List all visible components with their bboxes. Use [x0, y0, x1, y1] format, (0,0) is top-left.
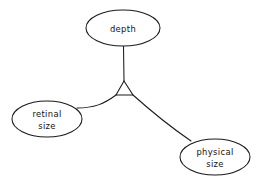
- link-junction-to-physical-size: [133, 95, 191, 141]
- node-depth-label: depth: [110, 24, 136, 34]
- node-retinal-size-label-line1: retinal: [32, 109, 61, 119]
- node-depth[interactable]: depth: [86, 10, 160, 46]
- node-retinal-size-shape: [12, 101, 82, 137]
- node-retinal-size-label-line2: size: [38, 121, 56, 131]
- concept-diagram: depth retinal size physical size: [0, 0, 261, 183]
- junction-triangle-icon: [116, 81, 133, 95]
- link-junction-to-retinal-size: [77, 95, 116, 108]
- node-physical-size-shape: [180, 139, 250, 175]
- node-physical-size-label-line1: physical: [196, 147, 233, 157]
- node-physical-size-label-line2: size: [206, 159, 224, 169]
- link-depth-to-junction: [124, 46, 125, 81]
- diagram-canvas: depth retinal size physical size: [0, 0, 261, 183]
- node-physical-size[interactable]: physical size: [180, 139, 250, 175]
- node-retinal-size[interactable]: retinal size: [12, 101, 82, 137]
